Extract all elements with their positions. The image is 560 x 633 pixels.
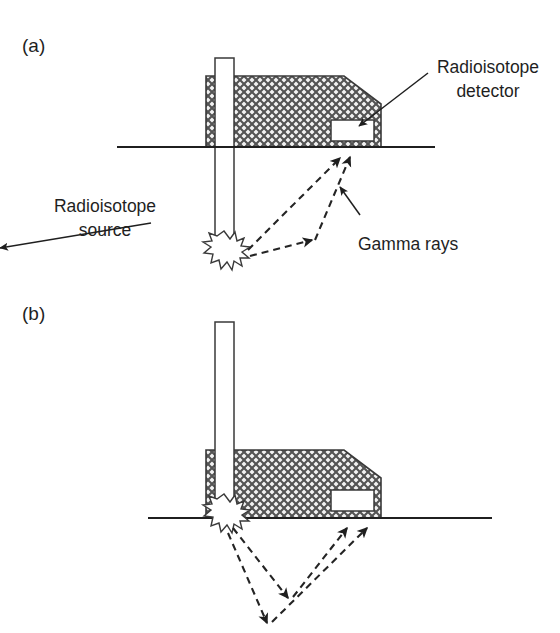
gamma-ray-b-2 <box>293 528 347 597</box>
panel-b-label: (b) <box>22 303 45 324</box>
gamma-ray-a-1 <box>248 158 340 250</box>
source-burst-a <box>203 231 250 270</box>
diagram-canvas: (a) Radioisotope detect <box>0 0 560 633</box>
gamma-ray-b-3 <box>228 533 267 623</box>
annotation-detector-line1: Radioisotope <box>437 57 539 77</box>
panel-a: (a) Radioisotope detect <box>0 35 539 270</box>
probe-rod-a <box>215 58 234 250</box>
panel-a-label: (a) <box>22 35 45 56</box>
detector-box-a <box>331 120 374 141</box>
annotation-source-line1: Radioisotope <box>54 196 156 216</box>
annotation-gamma-line1: Gamma rays <box>358 234 458 254</box>
figure-root: (a) Radioisotope detect <box>0 0 560 633</box>
gamma-ray-b-4 <box>272 528 367 622</box>
leader-gamma-a <box>340 187 360 215</box>
annotation-source-line2: source <box>79 220 132 240</box>
gamma-ray-b-1 <box>233 528 288 598</box>
annotation-detector-line2: detector <box>456 81 519 101</box>
detector-box-b <box>331 490 374 511</box>
gamma-ray-a-2 <box>250 240 312 256</box>
probe-rod-b <box>215 322 234 522</box>
panel-b: (b) <box>22 303 492 623</box>
gamma-ray-a-3 <box>315 157 350 240</box>
